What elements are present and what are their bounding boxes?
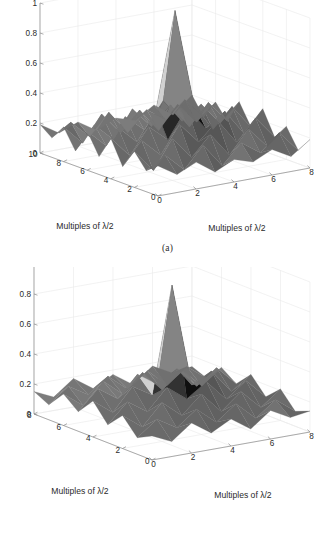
svg-text:6: 6 — [56, 423, 61, 432]
svg-text:0.2: 0.2 — [26, 119, 38, 128]
svg-text:1: 1 — [26, 267, 31, 269]
svg-text:0.8: 0.8 — [26, 29, 38, 38]
svg-text:0: 0 — [145, 457, 150, 466]
svg-text:1: 1 — [32, 0, 37, 8]
svg-text:0.6: 0.6 — [26, 59, 38, 68]
x-axis-label: Multiples of λ/2 — [208, 223, 266, 233]
svg-text:0: 0 — [151, 460, 156, 469]
svg-text:6: 6 — [271, 175, 276, 184]
svg-text:6: 6 — [80, 167, 85, 176]
svg-text:0: 0 — [157, 196, 162, 205]
svg-text:4: 4 — [86, 434, 91, 443]
svg-text:0.4: 0.4 — [20, 350, 32, 359]
svg-text:2: 2 — [127, 185, 132, 194]
svg-text:0: 0 — [151, 193, 156, 202]
svg-text:0.6: 0.6 — [20, 320, 32, 329]
svg-text:8: 8 — [309, 432, 314, 441]
svg-text:0.4: 0.4 — [26, 89, 38, 98]
svg-text:8: 8 — [27, 411, 32, 420]
surface-plot-a: 00.20.40.60.81108642002468Multiples of λ… — [0, 0, 335, 243]
svg-text:2: 2 — [195, 189, 200, 198]
figure-panel-a: 00.20.40.60.81108642002468Multiples of λ… — [0, 0, 335, 267]
svg-text:2: 2 — [115, 446, 120, 455]
x-axis-label: Multiples of λ/2 — [214, 490, 272, 500]
svg-text:0.2: 0.2 — [20, 380, 32, 389]
surface-plot-b: 00.20.40.60.818642002468Multiples of λ/2… — [0, 267, 335, 510]
svg-text:0.8: 0.8 — [20, 290, 32, 299]
y-axis-label: Multiples of λ/2 — [56, 221, 114, 231]
svg-text:4: 4 — [104, 176, 109, 185]
svg-text:10: 10 — [28, 150, 38, 159]
svg-text:8: 8 — [57, 159, 62, 168]
svg-text:6: 6 — [270, 439, 275, 448]
svg-text:4: 4 — [230, 446, 235, 455]
figure-panel-b: 00.20.40.60.818642002468Multiples of λ/2… — [0, 267, 335, 534]
caption-a: (a) — [0, 243, 335, 253]
svg-text:4: 4 — [233, 182, 238, 191]
svg-text:8: 8 — [309, 168, 314, 177]
y-axis-label: Multiples of λ/2 — [51, 486, 109, 496]
svg-text:2: 2 — [191, 453, 196, 462]
